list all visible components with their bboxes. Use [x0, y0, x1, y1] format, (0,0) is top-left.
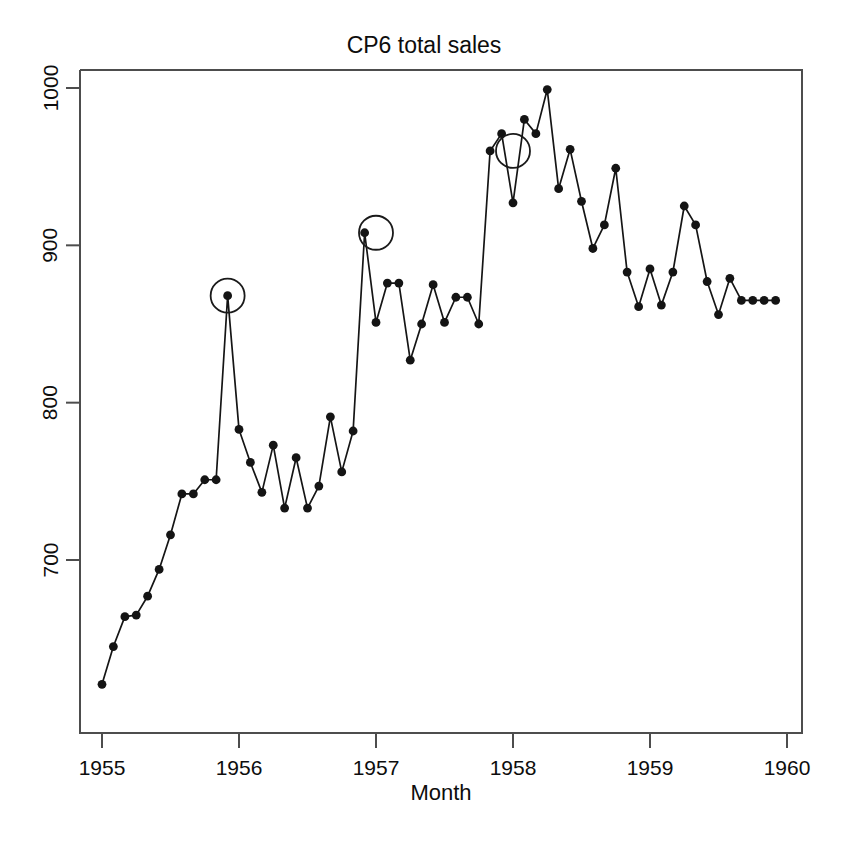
data-point	[417, 320, 426, 329]
data-point	[132, 611, 141, 620]
data-point	[691, 220, 700, 229]
data-point	[600, 220, 609, 229]
data-point	[406, 356, 415, 365]
data-point	[292, 453, 301, 462]
data-point	[760, 296, 769, 305]
data-point	[623, 268, 632, 277]
data-point	[120, 612, 129, 621]
x-tick-label-1957: 1957	[353, 756, 400, 779]
data-point	[771, 296, 780, 305]
data-point	[349, 427, 358, 436]
y-axis: 7008009001000	[39, 65, 81, 578]
data-point	[143, 592, 152, 601]
data-point	[566, 145, 575, 154]
data-point	[109, 642, 118, 651]
data-point	[440, 318, 449, 327]
series-line-cp6-total-sales	[102, 90, 776, 685]
plot-frame	[80, 70, 802, 733]
data-point	[463, 293, 472, 302]
data-point	[235, 425, 244, 434]
data-point	[394, 279, 403, 288]
data-point	[337, 467, 346, 476]
data-point	[634, 302, 643, 311]
outlier-highlight-circle	[496, 134, 530, 168]
data-point	[543, 85, 552, 94]
x-tick-label-1958: 1958	[490, 756, 537, 779]
data-point	[200, 475, 209, 484]
data-point	[269, 441, 278, 450]
x-axis-label: Month	[410, 780, 471, 805]
x-tick-label-1955: 1955	[79, 756, 126, 779]
data-point	[588, 244, 597, 253]
data-point	[554, 184, 563, 193]
x-axis: 195519561957195819591960	[79, 733, 811, 779]
data-point	[703, 277, 712, 286]
y-tick-label-800: 800	[39, 385, 62, 420]
data-point	[646, 265, 655, 274]
chart-container: CP6 total sales Month 7008009001000 1955…	[0, 0, 849, 850]
data-point	[303, 504, 312, 513]
data-point	[280, 504, 289, 513]
data-point	[246, 458, 255, 467]
data-point	[725, 274, 734, 283]
data-point	[657, 301, 666, 310]
data-point	[451, 293, 460, 302]
data-point	[383, 279, 392, 288]
x-tick-label-1956: 1956	[216, 756, 263, 779]
data-point	[486, 147, 495, 156]
data-point	[314, 482, 323, 491]
data-point	[166, 530, 175, 539]
data-point	[680, 202, 689, 211]
chart-title: CP6 total sales	[347, 32, 502, 58]
y-tick-label-900: 900	[39, 228, 62, 263]
data-point	[531, 129, 540, 138]
data-point	[189, 490, 198, 499]
x-tick-label-1960: 1960	[764, 756, 811, 779]
data-point	[737, 296, 746, 305]
data-point	[520, 115, 529, 124]
y-tick-label-1000: 1000	[39, 65, 62, 112]
line-chart: CP6 total sales Month 7008009001000 1955…	[0, 0, 849, 850]
y-tick-label-700: 700	[39, 542, 62, 577]
data-point	[577, 197, 586, 206]
data-point	[429, 280, 438, 289]
data-point	[611, 164, 620, 173]
data-point	[223, 291, 232, 300]
data-point	[98, 680, 107, 689]
data-point	[257, 488, 266, 497]
data-point	[474, 320, 483, 329]
data-point	[714, 310, 723, 319]
data-point	[509, 198, 518, 207]
data-point	[668, 268, 677, 277]
data-point	[212, 475, 221, 484]
data-point	[155, 565, 164, 574]
data-point	[748, 296, 757, 305]
data-point	[360, 228, 369, 237]
data-point	[177, 490, 186, 499]
x-tick-label-1959: 1959	[627, 756, 674, 779]
data-point	[326, 412, 335, 421]
data-point	[372, 318, 381, 327]
data-markers	[98, 85, 780, 689]
data-series	[102, 90, 776, 685]
